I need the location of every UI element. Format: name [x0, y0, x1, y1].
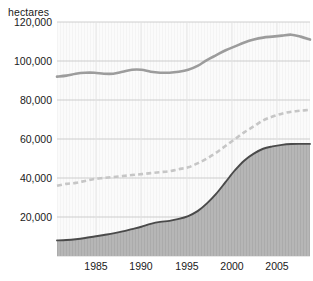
chart-container: hectares 120,000 100,000 80,000 60,000 4… — [0, 0, 313, 281]
plot-area — [0, 0, 313, 281]
